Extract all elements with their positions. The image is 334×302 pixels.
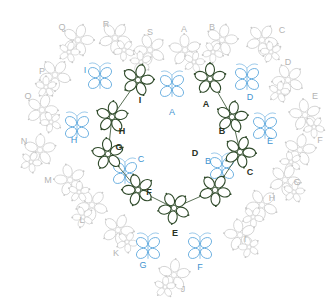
outer-label-k: K bbox=[113, 249, 119, 258]
inner-label-e: E bbox=[172, 229, 178, 238]
butterfly-label-b: B bbox=[205, 157, 211, 166]
butterfly-a bbox=[158, 71, 185, 99]
butterfly-f bbox=[186, 233, 213, 261]
outer-ring-motifs bbox=[20, 23, 325, 298]
outer-label-e: E bbox=[312, 92, 318, 101]
inner-label-d: D bbox=[192, 149, 199, 158]
outer-label-m: M bbox=[44, 176, 52, 185]
butterfly-label-i: I bbox=[84, 66, 87, 75]
outer-label-j: J bbox=[181, 285, 186, 294]
butterfly-label-e: E bbox=[267, 137, 273, 146]
outer-label-i: I bbox=[244, 235, 247, 244]
outer-label-g: G bbox=[293, 178, 300, 187]
butterfly-label-g: G bbox=[139, 261, 146, 270]
outer-label-o: O bbox=[24, 92, 31, 101]
inner-label-a: A bbox=[203, 100, 210, 109]
outer-label-p: P bbox=[39, 67, 45, 76]
butterfly-label-d: D bbox=[247, 93, 254, 102]
outer-label-a: A bbox=[181, 25, 187, 34]
inner-flower-d bbox=[199, 174, 232, 207]
outer-label-c: C bbox=[279, 26, 286, 35]
heart-diagram bbox=[0, 0, 334, 302]
outer-label-f: F bbox=[317, 136, 323, 145]
inner-label-b: B bbox=[219, 127, 226, 136]
inner-label-i: I bbox=[139, 96, 142, 105]
butterfly-label-c: C bbox=[138, 155, 145, 164]
inner-label-c: C bbox=[247, 168, 254, 177]
outer-label-r: R bbox=[103, 20, 110, 29]
outer-label-s: S bbox=[147, 28, 153, 37]
outer-label-d: D bbox=[285, 58, 292, 67]
outer-label-l: L bbox=[79, 216, 84, 225]
inner-label-h: H bbox=[119, 127, 126, 136]
inner-label-g: G bbox=[115, 143, 122, 152]
butterfly-g bbox=[134, 233, 161, 261]
butterfly-label-h: H bbox=[71, 136, 78, 145]
butterfly-i bbox=[86, 63, 113, 91]
outer-label-n: N bbox=[21, 137, 28, 146]
outer-label-b: B bbox=[209, 23, 215, 32]
inner-flower-e bbox=[157, 192, 190, 225]
butterfly-label-a: A bbox=[169, 108, 175, 117]
outer-label-h: H bbox=[269, 194, 276, 203]
butterfly-label-f: F bbox=[197, 263, 203, 272]
butterfly-d bbox=[233, 64, 260, 92]
outer-label-q: Q bbox=[58, 23, 65, 32]
outer-sub-flower bbox=[116, 231, 138, 253]
butterfly-e bbox=[251, 113, 278, 141]
inner-label-f: F bbox=[146, 188, 152, 197]
inner-flower-i bbox=[123, 64, 156, 97]
